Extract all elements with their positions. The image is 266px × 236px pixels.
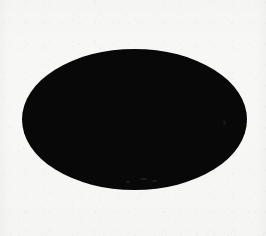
figure-title: Solid black ellipse on light paper backg… xyxy=(0,0,1,1)
figure-canvas: Solid black ellipse on light paper backg… xyxy=(0,0,266,236)
scan-band-right xyxy=(256,0,266,236)
scan-band-left xyxy=(0,0,10,236)
black-ellipse-shape xyxy=(22,49,247,190)
